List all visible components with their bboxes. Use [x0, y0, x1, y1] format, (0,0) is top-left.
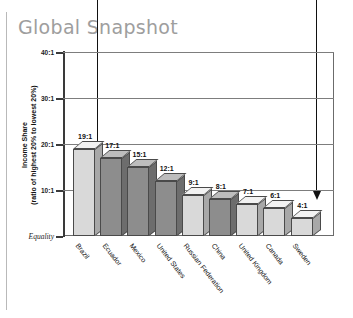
y-tick-0 — [56, 236, 63, 238]
bar-united-states: 12:1United States — [155, 181, 177, 236]
bar-value-label: 4:1 — [297, 202, 307, 209]
plot-area: 40:130:120:110:1Equality 19:1Brazil17:1E… — [63, 52, 334, 236]
x-axis-label-ecuador: Ecuador — [101, 242, 123, 267]
bar-value-label: 9:1 — [189, 179, 199, 186]
bar-face-front — [209, 199, 231, 236]
bar-face-front — [127, 167, 149, 236]
bar-canada: 6:1Canada — [263, 208, 285, 236]
gridline-30 — [63, 98, 334, 99]
gridline-20 — [63, 144, 334, 145]
bar-ecuador: 17:1Ecuador — [100, 158, 122, 236]
x-axis-label-canada: Canada — [264, 242, 285, 266]
y-tick-label-30: 30:1 — [41, 95, 54, 102]
bar-brazil: 19:1Brazil — [73, 149, 95, 236]
bar-russian-federation: 9:1Russian Federation — [182, 195, 204, 236]
bar-united-kingdom: 7:1United Kingdom — [236, 204, 258, 236]
bar-value-label: 17:1 — [105, 142, 119, 149]
bar-value-label: 19:1 — [78, 133, 92, 140]
y-tick-20 — [56, 144, 63, 146]
bar-face-front — [155, 181, 177, 236]
bar-value-label: 12:1 — [160, 165, 174, 172]
y-tick-label-10: 10:1 — [41, 187, 54, 194]
x-axis-label-united-states: United States — [156, 242, 187, 279]
y-axis-caption-line2: (ratio of highest 20% to lowest 20%) — [29, 60, 38, 230]
bar-sweden: 4:1Sweden — [291, 218, 313, 236]
bar-face-front — [100, 158, 122, 236]
x-axis-label-china: China — [210, 242, 227, 261]
bar-face-front — [73, 149, 95, 236]
y-axis-caption-line1: Income Share — [20, 60, 29, 230]
bar-face-front — [236, 204, 258, 236]
bar-face-front — [291, 218, 313, 236]
x-axis-label-sweden: Sweden — [292, 242, 313, 266]
y-tick-40 — [56, 52, 63, 54]
bar-mexico: 15:1Mexico — [127, 167, 149, 236]
y-tick-label-40: 40:1 — [41, 49, 54, 56]
y-tick-30 — [56, 98, 63, 100]
y-tick-label-20: 20:1 — [41, 141, 54, 148]
bar-value-label: 7:1 — [243, 188, 253, 195]
bar-value-label: 8:1 — [216, 183, 226, 190]
y-axis-caption: Income Share (ratio of highest 20% to lo… — [20, 60, 39, 230]
bar-value-label: 6:1 — [270, 192, 280, 199]
bar-china: 8:1China — [209, 199, 231, 236]
bar-value-label: 15:1 — [133, 151, 147, 158]
x-axis-label-mexico: Mexico — [128, 242, 147, 264]
x-axis-label-brazil: Brazil — [74, 242, 90, 260]
y-tick-10 — [56, 190, 63, 192]
page-margin-rule — [6, 12, 7, 310]
y-tick-label-0: Equality — [29, 232, 54, 241]
bar-face-front — [263, 208, 285, 236]
bar-face-front — [182, 195, 204, 236]
gridline-40 — [63, 52, 334, 53]
chart-page: Global Snapshot Income Share (ratio of h… — [0, 0, 353, 318]
